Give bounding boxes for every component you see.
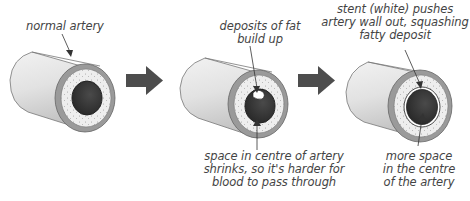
label-space-shrinks: space in centre of artery shrinks, so it… — [184, 150, 364, 189]
stent-artery-tube — [346, 62, 452, 142]
label-deposits-of-fat: deposits of fat build up — [210, 20, 310, 46]
normal-artery-tube — [10, 52, 115, 132]
label-normal-artery: normal artery — [26, 20, 102, 33]
arrow-right-icon — [126, 66, 163, 95]
label-more-space: more space in the centre of the artery — [378, 150, 460, 189]
blocked-artery-tube — [180, 58, 288, 138]
arrow-right-icon — [298, 66, 335, 95]
label-stent-pushes: stent (white) pushes artery wall out, sq… — [320, 3, 470, 42]
fat-deposit — [253, 90, 264, 99]
lumen — [72, 81, 102, 115]
normal-artery-pointer — [62, 34, 73, 57]
